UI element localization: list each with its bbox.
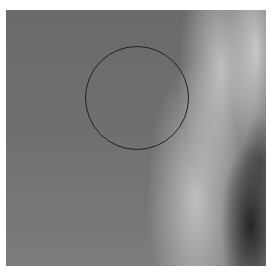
circle-annotation-marker [85, 46, 189, 150]
xray-image [6, 10, 266, 266]
